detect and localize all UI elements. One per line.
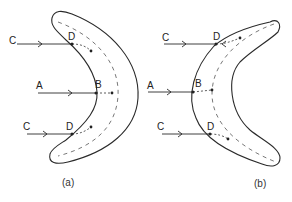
point-d-top-a: [71, 43, 74, 46]
focus-dot-top-a: [90, 50, 93, 53]
point-d-top-b: [215, 43, 218, 46]
focus-dot-top-b: [239, 37, 242, 40]
dashed-midline-a: [58, 22, 118, 156]
refracted-ray-mid-b: [193, 90, 212, 92]
label-c-bottom-b: C: [157, 121, 164, 132]
focus-dot-bottom-b: [227, 138, 230, 141]
label-c-bottom-a: C: [23, 121, 30, 132]
caption-a: (a): [62, 177, 74, 188]
diagram-canvas: C D A B C D (a) C D: [0, 0, 292, 202]
caption-b: (b): [254, 178, 266, 189]
point-d-bottom-b: [209, 133, 212, 136]
label-d-bottom-a: D: [66, 121, 73, 132]
refracted-ray-bottom-b: [210, 134, 228, 139]
label-b-a: B: [95, 79, 102, 90]
panel-b: C D A B C D (b): [147, 21, 280, 189]
label-d-top-a: D: [68, 31, 75, 42]
point-d-bottom-a: [71, 133, 74, 136]
panel-a: C D A B C D (a): [9, 11, 138, 188]
focus-dot-mid-a: [111, 92, 114, 95]
arrowhead-icon: [222, 41, 226, 47]
crescent-outline-a: [50, 11, 138, 163]
crescent-outline-b: [192, 21, 280, 166]
label-c-top-a: C: [9, 35, 16, 46]
focus-dot-mid-b: [211, 89, 214, 92]
label-a-b: A: [147, 80, 154, 91]
focus-dot-bottom-a: [90, 126, 93, 129]
label-d-top-b: D: [213, 31, 220, 42]
label-b-b: B: [195, 78, 202, 89]
point-b-b: [192, 91, 195, 94]
label-d-bottom-b: D: [207, 121, 214, 132]
label-c-top-b: C: [162, 32, 169, 43]
refracted-ray-top-a: [72, 44, 91, 51]
point-b-a: [95, 92, 98, 95]
label-a-a: A: [36, 80, 43, 91]
